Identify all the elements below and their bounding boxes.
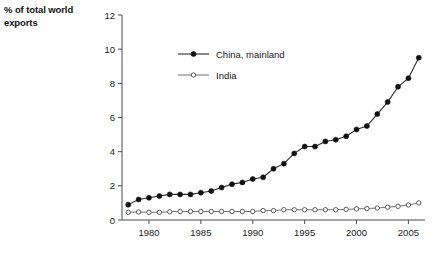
chart-figure: % of total world exports 024681012 19801… [0,0,432,257]
data-point [375,112,380,117]
data-series-layer [126,55,422,214]
x-axis: 198019851990199520002005 [122,220,425,238]
data-point [147,210,151,214]
data-point [240,180,245,185]
data-point [385,205,389,209]
data-point [157,210,161,214]
y-axis-title-line-1: % of total world [4,4,73,15]
legend-label: China, mainland [216,49,285,60]
data-point [417,201,421,205]
y-tick-label: 4 [110,146,115,157]
data-point [334,208,338,212]
y-tick-label: 8 [110,78,115,89]
data-point [251,209,255,213]
data-point [168,210,172,214]
y-axis-title: % of total world exports [4,4,96,29]
data-point [354,127,359,132]
data-point [323,208,327,212]
y-axis-tick-labels: 024681012 [104,10,115,226]
data-point [271,208,275,212]
data-point [396,84,401,89]
data-point [323,139,328,144]
data-point [188,192,193,197]
x-tick-label: 1985 [190,227,211,238]
data-point [344,134,349,139]
caption-sliver [0,252,432,257]
data-point [146,195,151,200]
x-tick-label: 1990 [242,227,263,238]
data-point [240,209,244,213]
data-point [178,192,183,197]
data-point [219,209,223,213]
chart-legend: China, mainlandIndia [178,49,285,81]
x-axis-ticks [149,220,408,224]
data-point [292,208,296,212]
series-india [126,201,421,215]
data-point [126,202,131,207]
data-point [385,100,390,105]
data-point [406,76,411,81]
x-tick-label: 2000 [346,227,367,238]
data-point [136,197,141,202]
legend-marker [191,52,196,57]
data-point [199,209,203,213]
y-tick-label: 2 [110,180,115,191]
data-point [157,194,162,199]
legend-entry-india[interactable]: India [178,70,237,81]
x-axis-tick-labels: 198019851990199520002005 [138,227,419,238]
data-point [219,185,224,190]
data-point [354,207,358,211]
data-point [271,166,276,171]
data-point [126,210,130,214]
data-point [333,137,338,142]
data-point [198,190,203,195]
data-point [261,175,266,180]
data-point [209,209,213,213]
y-axis-ticks [118,15,122,220]
data-point [178,209,182,213]
series-line [128,58,419,205]
x-tick-label: 1995 [294,227,315,238]
y-axis-title-line-2: exports [4,17,38,28]
data-point [416,55,421,60]
data-point [292,151,297,156]
data-point [229,182,234,187]
series-china [126,55,422,207]
data-point [313,144,318,149]
data-point [136,210,140,214]
y-tick-label: 10 [104,44,115,55]
data-point [250,177,255,182]
data-point [344,207,348,211]
legend-marker [191,73,195,77]
data-point [396,204,400,208]
legend-entry-china[interactable]: China, mainland [178,49,285,60]
y-tick-label: 12 [104,10,115,21]
data-point [313,208,317,212]
data-point [282,208,286,212]
line-chart-plot: 024681012 198019851990199520002005 China… [0,0,432,257]
legend-label: India [216,70,237,81]
y-axis: 024681012 [104,10,122,226]
data-point [406,203,410,207]
data-point [364,124,369,129]
data-point [230,209,234,213]
data-point [209,188,214,193]
data-point [302,144,307,149]
data-point [302,208,306,212]
y-tick-label: 0 [110,215,115,226]
data-point [281,161,286,166]
data-point [261,208,265,212]
data-point [365,206,369,210]
data-point [167,192,172,197]
y-tick-label: 6 [110,112,115,123]
x-tick-label: 2005 [398,227,419,238]
data-point [375,206,379,210]
x-tick-label: 1980 [138,227,159,238]
data-point [188,209,192,213]
